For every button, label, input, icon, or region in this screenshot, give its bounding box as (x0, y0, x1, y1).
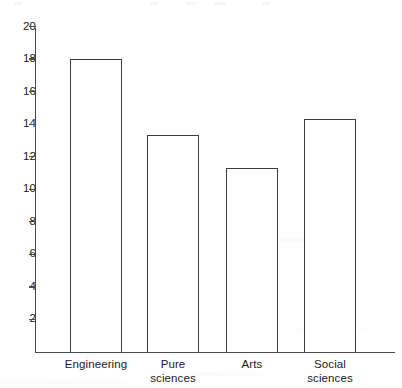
bar-chart: 2468101214161820 EngineeringPuresciences… (0, 0, 402, 388)
plot-area: 2468101214161820 EngineeringPuresciences… (0, 0, 402, 388)
y-tick-20: 20 (0, 21, 36, 33)
y-tick-mark (29, 91, 36, 92)
x-label-line: Social (285, 358, 375, 372)
bar-engineering (70, 59, 122, 352)
bar-pure-sciences (147, 135, 199, 352)
y-tick-12: 12 (0, 151, 36, 163)
x-label-social-sciences: Socialsciences (285, 358, 375, 385)
y-tick-10: 10 (0, 183, 36, 195)
y-tick-mark (29, 254, 36, 255)
y-tick-16: 16 (0, 86, 36, 98)
y-tick-8: 8 (0, 216, 36, 228)
y-tick-18: 18 (0, 53, 36, 65)
x-label-line: sciences (128, 372, 218, 386)
y-tick-mark (29, 58, 36, 59)
bar-arts (226, 168, 278, 352)
bar-social-sciences (304, 119, 356, 352)
y-tick-mark (29, 26, 36, 27)
x-axis-line (35, 352, 395, 353)
y-tick-14: 14 (0, 118, 36, 130)
y-tick-mark (29, 319, 36, 320)
y-tick-mark (29, 286, 36, 287)
y-tick-4: 4 (0, 281, 36, 293)
x-label-arts: Arts (207, 358, 297, 372)
y-tick-2: 2 (0, 313, 36, 325)
x-label-pure-sciences: Puresciences (128, 358, 218, 385)
x-label-line: Pure (128, 358, 218, 372)
y-tick-mark (29, 189, 36, 190)
y-tick-mark (29, 156, 36, 157)
x-label-line: sciences (285, 372, 375, 386)
y-tick-mark (29, 124, 36, 125)
y-tick-mark (29, 221, 36, 222)
y-tick-6: 6 (0, 248, 36, 260)
x-label-line: Arts (207, 358, 297, 372)
